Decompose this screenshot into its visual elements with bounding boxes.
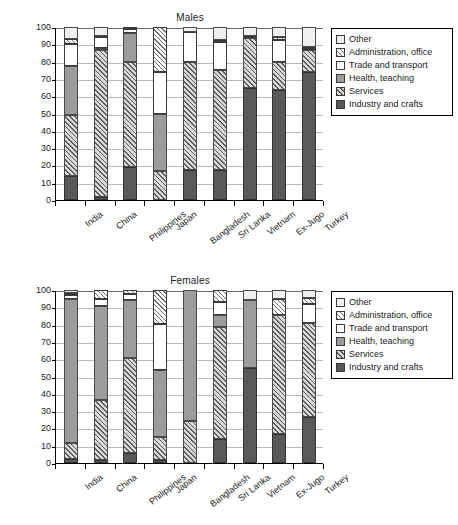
y-axis-tick-label: 80 bbox=[26, 58, 51, 67]
legend-label: Administration, office bbox=[349, 311, 432, 320]
legend-label: Trade and transport bbox=[349, 324, 428, 333]
y-axis-tick-mark bbox=[52, 291, 56, 292]
y-axis-tick-mark bbox=[52, 360, 56, 361]
y-axis-tick-label: 80 bbox=[26, 321, 51, 330]
segment-other bbox=[302, 290, 316, 298]
segment-other bbox=[243, 27, 257, 36]
legend-label: Other bbox=[349, 298, 372, 307]
legend-item-services[interactable]: Services bbox=[336, 348, 448, 360]
legend-item-health[interactable]: Health, teaching bbox=[336, 72, 448, 84]
segment-trade-and-transport bbox=[302, 304, 316, 323]
bar-sri-lanka bbox=[213, 291, 227, 463]
segment-services bbox=[94, 400, 108, 461]
segment-health-teaching bbox=[123, 300, 137, 358]
y-axis-tick-label: 60 bbox=[26, 355, 51, 364]
segment-health-teaching bbox=[153, 370, 167, 437]
segment-trade-and-transport bbox=[123, 294, 137, 300]
y-axis-tick-mark bbox=[52, 378, 56, 379]
segment-services bbox=[94, 50, 108, 196]
x-axis-tick-mark bbox=[174, 201, 175, 206]
legend-item-services[interactable]: Services bbox=[336, 85, 448, 97]
x-axis-tick-mark bbox=[234, 201, 235, 206]
bar-ex-jugo bbox=[272, 28, 286, 200]
y-axis-tick-mark bbox=[52, 166, 56, 167]
y-axis-tick-mark bbox=[52, 28, 56, 29]
y-axis-tick-label: 40 bbox=[26, 127, 51, 136]
chart-panel-males: Males Percentage 0102030405060708090100 … bbox=[0, 0, 458, 262]
x-axis-tick-mark bbox=[174, 464, 175, 469]
segment-administration-office bbox=[64, 39, 78, 44]
legend-item-trade[interactable]: Trade and transport bbox=[336, 59, 448, 71]
bar-india bbox=[64, 291, 78, 463]
y-axis-tick-label: 30 bbox=[26, 144, 51, 153]
x-axis-tick-mark bbox=[204, 201, 205, 206]
y-axis-tick-mark bbox=[52, 45, 56, 46]
plot-area-males: 0102030405060708090100 bbox=[55, 28, 323, 201]
y-axis-tick-mark bbox=[52, 63, 56, 64]
y-axis-tick-mark bbox=[52, 80, 56, 81]
chart-title-females: Females bbox=[55, 275, 325, 286]
y-axis-tick-label: 70 bbox=[26, 338, 51, 347]
y-axis-tick-mark bbox=[52, 149, 56, 150]
x-axis-label-china: China bbox=[114, 472, 139, 494]
bar-china bbox=[94, 291, 108, 463]
y-axis-tick-mark bbox=[52, 447, 56, 448]
y-axis-tick-mark bbox=[52, 412, 56, 413]
y-axis-tick-label: 90 bbox=[26, 40, 51, 49]
legend-swatch-services-icon bbox=[336, 350, 345, 359]
legend-item-other[interactable]: Other bbox=[336, 296, 448, 308]
segment-other bbox=[272, 27, 286, 37]
legend-item-admin[interactable]: Administration, office bbox=[336, 46, 448, 58]
legend-swatch-industry-icon bbox=[336, 363, 345, 372]
segment-industry-and-crafts bbox=[213, 170, 227, 200]
y-axis-tick-mark bbox=[52, 184, 56, 185]
segment-trade-and-transport bbox=[94, 299, 108, 306]
legend-swatch-health-icon bbox=[336, 74, 345, 83]
x-axis-tick-mark bbox=[263, 201, 264, 206]
legend-item-health[interactable]: Health, teaching bbox=[336, 335, 448, 347]
bar-turkey bbox=[302, 28, 316, 200]
segment-health-teaching bbox=[183, 290, 197, 421]
y-axis-tick-label: 90 bbox=[26, 303, 51, 312]
x-axis-tick-mark bbox=[115, 464, 116, 469]
legend-swatch-trade-icon bbox=[336, 61, 345, 70]
segment-trade-and-transport bbox=[213, 302, 227, 315]
segment-industry-and-crafts bbox=[123, 167, 137, 200]
segment-services bbox=[123, 358, 137, 452]
legend-item-admin[interactable]: Administration, office bbox=[336, 309, 448, 321]
y-axis-tick-mark bbox=[52, 132, 56, 133]
legend-label: Other bbox=[349, 35, 372, 44]
legend-item-trade[interactable]: Trade and transport bbox=[336, 322, 448, 334]
legend-item-industry[interactable]: Industry and crafts bbox=[336, 98, 448, 110]
x-axis-tick-mark bbox=[55, 201, 56, 206]
segment-services bbox=[64, 443, 78, 459]
chart-title-males: Males bbox=[55, 12, 325, 23]
segment-trade-and-transport bbox=[272, 40, 286, 62]
x-axis-label-india: India bbox=[83, 472, 105, 492]
segment-other bbox=[213, 27, 227, 40]
x-axis-label-india: India bbox=[83, 209, 105, 229]
y-axis-tick-mark bbox=[52, 115, 56, 116]
segment-services bbox=[123, 62, 137, 167]
y-axis-tick-label: 30 bbox=[26, 407, 51, 416]
x-axis-females: IndiaChinaPhilippinesJapanBangladeshSri … bbox=[55, 464, 323, 524]
segment-trade-and-transport bbox=[183, 32, 197, 62]
legend-item-industry[interactable]: Industry and crafts bbox=[336, 361, 448, 373]
legend-item-other[interactable]: Other bbox=[336, 33, 448, 45]
bar-china bbox=[94, 28, 108, 200]
y-axis-tick-label: 10 bbox=[26, 442, 51, 451]
bar-japan bbox=[153, 28, 167, 200]
y-axis-tick-label: 100 bbox=[26, 286, 51, 295]
x-axis-tick-mark bbox=[323, 201, 324, 206]
segment-trade-and-transport bbox=[64, 44, 78, 66]
segment-industry-and-crafts bbox=[94, 197, 108, 200]
segment-services bbox=[153, 437, 167, 460]
plot-area-females: 0102030405060708090100 bbox=[55, 291, 323, 464]
y-axis-tick-mark bbox=[52, 429, 56, 430]
legend-label: Industry and crafts bbox=[349, 363, 423, 372]
y-axis-tick-label: 100 bbox=[26, 23, 51, 32]
segment-industry-and-crafts bbox=[272, 90, 286, 200]
legend-swatch-services-icon bbox=[336, 87, 345, 96]
segment-other bbox=[272, 290, 286, 299]
legend-males: OtherAdministration, officeTrade and tra… bbox=[331, 28, 453, 116]
